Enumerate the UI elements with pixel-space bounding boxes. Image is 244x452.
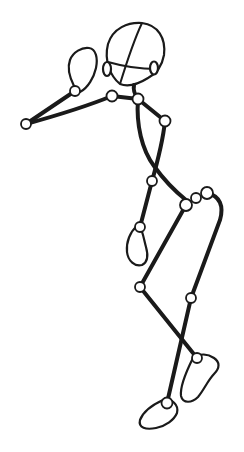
left-elbow-joint — [21, 119, 31, 129]
head — [103, 23, 164, 86]
left-shoulder-joint — [107, 91, 118, 102]
right-wrist-joint — [147, 176, 157, 186]
left-ankle-joint — [162, 398, 173, 409]
left-thigh — [140, 205, 186, 287]
right-elbow-joint — [160, 116, 171, 127]
left-wrist-joint — [70, 86, 80, 96]
hip-center-joint — [191, 193, 201, 203]
joints — [21, 86, 213, 409]
stick-figure-drawing — [0, 0, 244, 452]
left-hand — [69, 48, 97, 92]
right-knee-joint — [186, 293, 196, 303]
left-ear — [103, 62, 111, 76]
hip-left-joint — [180, 199, 192, 211]
left-knee-joint — [135, 282, 145, 292]
right-thigh — [191, 193, 221, 298]
left-upper-arm — [26, 96, 112, 124]
right-ankle-joint — [192, 353, 202, 363]
hip-right-joint — [201, 187, 213, 199]
neck-shoulder-joint — [133, 94, 144, 105]
right-lower-arm — [140, 181, 152, 227]
right-ear — [150, 62, 158, 75]
right-hand-joint — [135, 222, 145, 232]
